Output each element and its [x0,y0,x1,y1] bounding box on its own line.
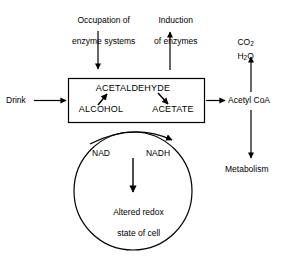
acetyl-coa-label: Acetyl CoA [228,95,290,106]
redox-state-line2: state of cell [117,228,160,238]
h2o-label: H2O [228,40,274,74]
occupation-label-line2: enzyme systems [72,36,135,46]
redox-state-line1: Altered redox [113,207,164,217]
alcohol-metabolism-diagram: Occupation of enzyme systems Induction o… [0,0,292,261]
occupation-label: Occupation of enzyme systems [54,4,144,57]
nadh-label: NADH [138,148,178,159]
induction-label: Induction of enzymes [136,4,206,57]
nad-label: NAD [84,148,118,159]
acetate-label: ACETATE [146,104,200,115]
acetaldehyde-to-acetate-arrow [158,93,168,104]
occupation-label-line1: Occupation of [78,15,130,25]
induction-label-line1: Induction [158,15,193,25]
metabolism-label: Metabolism [225,164,291,175]
alcohol-label: ALCOHOL [72,104,130,115]
drink-label: Drink [6,95,40,106]
induction-label-line2: of enzymes [154,36,197,46]
acetaldehyde-label: ACETALDEHYDE [88,83,178,94]
redox-state-label: Altered redox state of cell [88,196,180,249]
